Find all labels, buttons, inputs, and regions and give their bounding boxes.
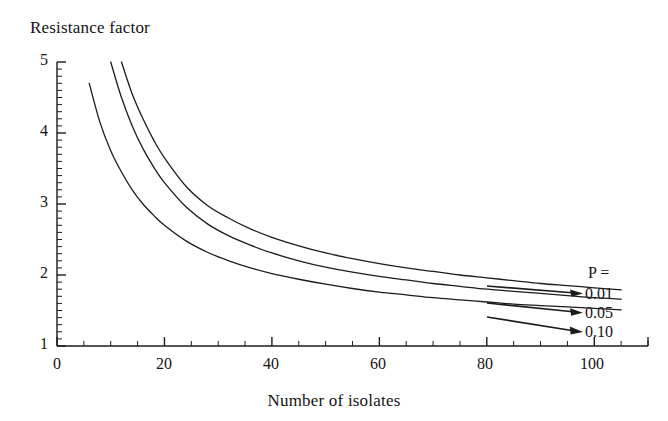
y-axis-ticks [57,62,66,346]
data-curves [89,62,621,310]
curve-p-0.01 [121,62,621,290]
curve-p-0.10 [89,83,621,309]
legend-arrow-0.10 [487,317,583,334]
axis-group [57,62,648,346]
x-axis-ticks [57,337,648,346]
plot-canvas [0,0,668,421]
figure-container: Resistance factor Number of isolates 5 4… [0,0,668,421]
curve-p-0.05 [111,62,621,299]
